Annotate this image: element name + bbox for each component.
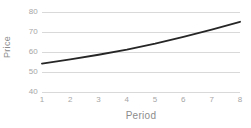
x-tick-label-3: 3 <box>89 95 109 105</box>
x-tick-label-4: 4 <box>117 95 137 105</box>
x-tick-label-6: 6 <box>173 95 193 105</box>
x-axis-title: Period <box>42 110 240 121</box>
x-tick-label-1: 1 <box>32 95 52 105</box>
plot-area <box>42 12 240 92</box>
x-tick-label-7: 7 <box>202 95 222 105</box>
x-tick-label-2: 2 <box>60 95 80 105</box>
x-tick-label-8: 8 <box>230 95 250 105</box>
x-axis-line <box>42 92 240 93</box>
y-axis-title: Price <box>2 24 12 70</box>
price-series-line <box>42 12 240 92</box>
x-tick-label-5: 5 <box>145 95 165 105</box>
y-tick-label-80: 80 <box>0 8 38 16</box>
line-chart: 80 70 60 50 40 Price 12345678 Period <box>0 0 251 128</box>
x-axis: 12345678 <box>42 95 240 107</box>
